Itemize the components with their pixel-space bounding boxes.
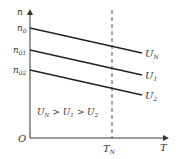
x-tick-TN: TN: [103, 143, 116, 155]
line-label-U2: U2: [145, 90, 157, 102]
speed-torque-diagram: n T O TN n0 n01 n02 UN U1 U2 UN > U1 > U…: [0, 0, 178, 159]
line-label-UN: UN: [145, 48, 159, 60]
voltage-relation: UN > U1 > U2: [37, 107, 99, 118]
y-tick-n02: n02: [13, 65, 27, 76]
line-U1: [30, 50, 142, 75]
y-axis-label: n: [17, 7, 23, 17]
line-U2: [30, 70, 142, 95]
y-tick-n0: n0: [17, 23, 27, 34]
line-UN: [30, 28, 142, 53]
y-tick-n01: n01: [13, 45, 26, 56]
line-label-U1: U1: [145, 70, 157, 82]
origin-label: O: [18, 133, 26, 144]
x-axis-label: T: [160, 142, 168, 153]
